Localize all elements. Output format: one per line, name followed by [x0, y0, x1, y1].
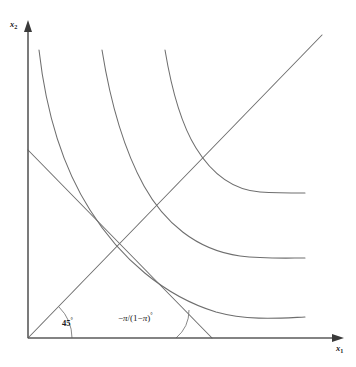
indifference-curve-2 — [102, 50, 305, 258]
indifference-curve-3 — [165, 50, 305, 193]
arc-price-angle-icon — [176, 310, 189, 338]
y-axis-label: x2 — [10, 20, 17, 29]
x-axis-label-subscript: 1 — [340, 347, 343, 354]
figure-root: x2 x1 45° −π/(1−π)° — [0, 0, 356, 367]
forty-five-degree-ray — [28, 35, 322, 338]
x-axis-arrow-icon — [332, 334, 344, 342]
price-slope-divider: /(1− — [128, 313, 143, 323]
angle-45-value: 45 — [62, 318, 71, 328]
x-axis-label: x1 — [336, 344, 343, 353]
angle-label-price-slope: −π/(1−π)° — [118, 312, 153, 323]
y-axis-label-subscript: 2 — [14, 23, 17, 30]
indifference-curve-1 — [39, 50, 305, 318]
price-slope-degree-symbol: ° — [150, 312, 152, 318]
y-axis-arrow-icon — [24, 20, 32, 32]
angle-label-45-degrees: 45° — [62, 317, 73, 327]
angle-45-degree-symbol: ° — [71, 317, 73, 323]
figure-canvas — [0, 0, 356, 367]
